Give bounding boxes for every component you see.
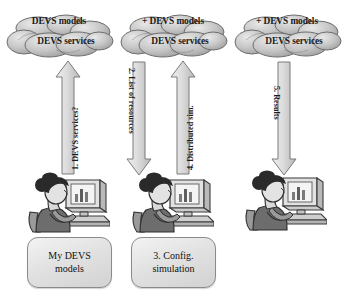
worker-1-user-at-computer <box>26 172 110 234</box>
cloud-1-line1: DEVS models <box>4 16 120 26</box>
cloud-devs-repository-1: DEVS models DEVS services <box>4 14 114 58</box>
worker-3-user-at-computer <box>243 170 327 232</box>
arrow-4-distributed-simulation: 4. Distributed sim. <box>170 60 196 176</box>
box-2-line2: simulation <box>152 263 194 275</box>
cloud-devs-repository-2: + DEVS models DEVS services <box>118 14 228 58</box>
diagram-canvas: DEVS models DEVS services <box>0 0 346 300</box>
arrow-1-devs-services-request: 1. DEVS services? <box>55 60 81 176</box>
arrow-2-label: 2. List of resources <box>127 68 136 134</box>
arrow-5-results: 5. Results <box>271 60 297 176</box>
box-1-line1: My DEVS <box>48 250 91 262</box>
arrow-4-label: 4. Distributed sim. <box>186 105 195 170</box>
arrow-5-label: 5. Results <box>272 86 281 120</box>
cloud-3-line2: DEVS services <box>232 36 342 46</box>
box-config-simulation: 3. Config. simulation <box>131 237 216 288</box>
box-1-line2: models <box>48 263 91 275</box>
arrow-1-label: 1. DEVS services? <box>71 107 80 170</box>
cloud-3-line1: + DEVS models <box>232 16 342 26</box>
arrow-2-list-of-resources: 2. List of resources <box>126 60 152 176</box>
user-at-computer-icon <box>243 170 327 232</box>
box-my-devs-models: My DEVS models <box>27 237 112 288</box>
user-at-computer-icon <box>130 172 214 234</box>
cloud-1-line2: DEVS services <box>4 36 114 46</box>
worker-2-user-at-computer <box>130 172 214 234</box>
cloud-2-line2: DEVS services <box>118 36 228 46</box>
box-2-line1: 3. Config. <box>152 250 194 262</box>
cloud-devs-repository-3: + DEVS models DEVS services <box>232 14 342 58</box>
user-at-computer-icon <box>26 172 110 234</box>
cloud-2-line1: + DEVS models <box>118 16 228 26</box>
